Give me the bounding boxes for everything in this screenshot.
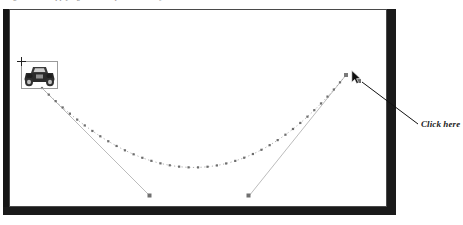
slide-stage[interactable]: [9, 9, 387, 207]
car-icon: [23, 64, 56, 87]
stage-shadow-right: [387, 9, 396, 215]
screenshot-root: Figure 9-14. Applying a motion path to a…: [0, 0, 463, 225]
click-here-label: Click here: [421, 119, 460, 129]
mouse-pointer-icon: [351, 70, 362, 85]
figure-caption-remnant: Figure 9-14. Applying a motion path to a…: [6, 0, 196, 3]
car-object[interactable]: [21, 61, 58, 89]
stage-shadow-bottom: [3, 207, 396, 215]
